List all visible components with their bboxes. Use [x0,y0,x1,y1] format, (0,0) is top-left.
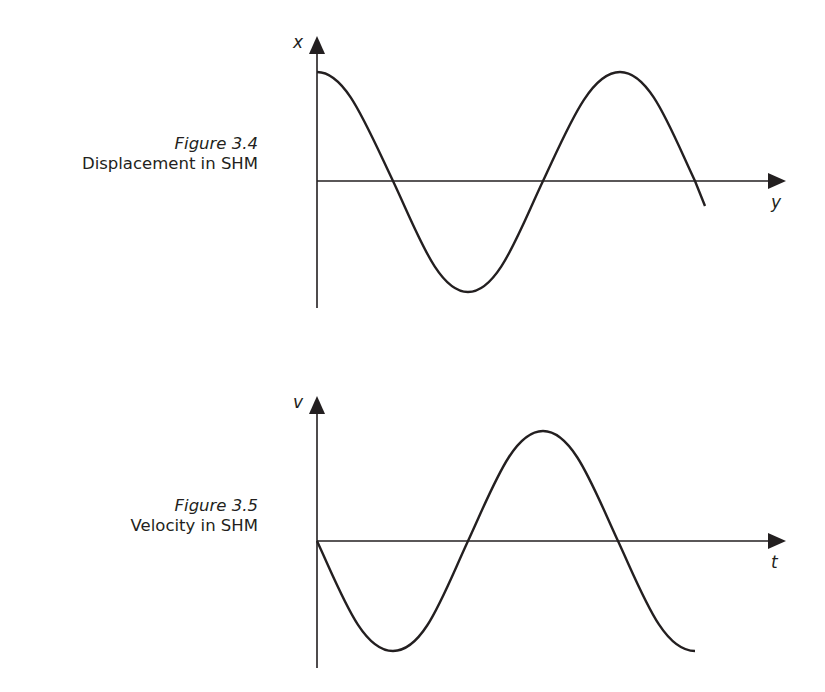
velocity-graph: v t [293,392,786,668]
y-axis-label: x [292,32,304,52]
x-axis-arrow-icon [768,173,786,189]
y-axis-arrow-icon [309,396,325,414]
y-axis-label: v [293,392,304,412]
displacement-graph: x y [292,32,786,308]
x-axis-label: y [770,192,782,212]
displacement-curve [317,72,705,292]
x-axis-label: t [771,552,779,572]
y-axis-arrow-icon [309,36,325,54]
diagram-canvas: x y v t [0,0,825,692]
x-axis-arrow-icon [768,533,786,549]
